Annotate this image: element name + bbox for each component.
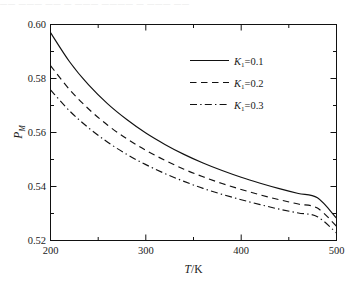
x-axis-title: T/K [185, 263, 204, 275]
line-chart: 0.60 0.58 0.56 0.54 0.52 200 300 400 500… [0, 0, 361, 281]
legend-eq: =0.3 [245, 100, 264, 111]
y-axis-title-sub: M [18, 125, 27, 133]
y-axis-title-main: P [12, 132, 24, 140]
x-axis-title-unit: /K [191, 263, 203, 275]
legend-eq: =0.1 [245, 56, 264, 67]
x-axis-tick-labels: 200 300 400 500 [43, 245, 345, 256]
y-axis-tick-labels: 0.60 0.58 0.56 0.54 0.52 [28, 19, 47, 246]
x-tick-label: 300 [138, 245, 154, 256]
legend-label-k1-0-3: K1=0.3 [233, 100, 264, 113]
chart-figure: —— ——— —— — ——— ———— — ——— —— [0, 0, 361, 281]
legend-item-k1-0-1: K1=0.1 [190, 56, 264, 69]
svg-text:PM: PM [12, 125, 27, 140]
legend-item-k1-0-3: K1=0.3 [190, 100, 264, 113]
y-tick-label: 0.54 [28, 181, 47, 192]
x-tick-label: 400 [233, 245, 249, 256]
y-axis-major-ticks [51, 25, 337, 241]
legend-label-k1-0-1: K1=0.1 [233, 56, 264, 69]
y-tick-label: 0.56 [28, 127, 46, 138]
y-axis-title: PM [12, 125, 27, 140]
legend: K1=0.1 K1=0.2 K1=0.3 [190, 56, 264, 113]
plot-frame [51, 25, 337, 241]
legend-eq: =0.2 [245, 78, 264, 89]
legend-label-k1-0-2: K1=0.2 [233, 78, 264, 91]
y-axis-minor-ticks [51, 52, 337, 214]
series-line-k1-0-3 [51, 90, 337, 233]
x-tick-label: 200 [43, 245, 59, 256]
x-axis-major-ticks [51, 25, 337, 241]
y-tick-label: 0.60 [28, 19, 46, 30]
x-tick-label: 500 [329, 245, 345, 256]
legend-item-k1-0-2: K1=0.2 [190, 78, 264, 91]
y-tick-label: 0.58 [28, 73, 46, 84]
